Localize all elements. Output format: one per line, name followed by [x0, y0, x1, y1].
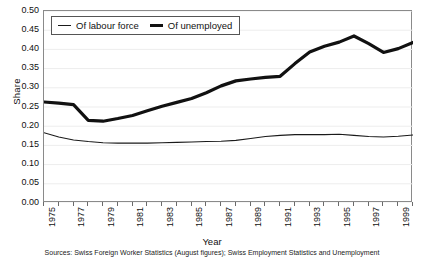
series-line-of-unemployed: [44, 36, 413, 121]
x-axis-tick: [102, 202, 103, 206]
y-axis-tick-label: 0.35: [11, 63, 39, 72]
chart-figure: Share 0.500.450.400.350.300.250.200.150.…: [0, 0, 424, 258]
x-axis-tick-label: 1991: [284, 207, 293, 227]
x-axis-tick: [161, 202, 162, 206]
legend-line-thick-icon: [150, 24, 163, 27]
x-axis-tick: [368, 202, 369, 206]
x-axis-tick-label: 1987: [225, 207, 234, 227]
x-axis-tick: [250, 202, 251, 206]
x-axis-tick: [235, 202, 236, 206]
legend-item-unemployed: Of unemployed: [150, 20, 232, 31]
x-axis-tick: [309, 202, 310, 206]
plot-area: Of labour force Of unemployed: [43, 10, 412, 202]
y-axis-tick-label: 0.05: [11, 178, 39, 187]
x-axis-tick: [146, 202, 147, 206]
x-axis-tick-label: 1999: [402, 207, 411, 227]
source-caption: Sources: Swiss Foreign Worker Statistics…: [0, 249, 424, 257]
x-axis-tick-label: 1981: [136, 207, 145, 227]
x-axis-tick: [176, 202, 177, 206]
x-axis-tick: [43, 202, 44, 206]
x-axis-tick: [353, 202, 354, 206]
x-axis-tick: [205, 202, 206, 206]
chart-canvas: [44, 11, 413, 203]
legend-label-labour-force: Of labour force: [76, 20, 139, 31]
y-axis-tick-labels: 0.500.450.400.350.300.250.200.150.100.05…: [8, 0, 39, 258]
y-axis-tick-label: 0.15: [11, 140, 39, 149]
x-axis-tick: [264, 202, 265, 206]
x-axis-tick-label: 1997: [372, 207, 381, 227]
x-axis-tick: [191, 202, 192, 206]
x-axis-tick: [397, 202, 398, 206]
y-axis-tick-label: 0.25: [11, 102, 39, 111]
x-axis-tick-label: 1989: [254, 207, 263, 227]
x-axis-tick-label: 1995: [343, 207, 352, 227]
series-line-of-labour-force: [44, 133, 413, 143]
x-axis-tick: [338, 202, 339, 206]
x-axis-tick: [279, 202, 280, 206]
y-axis-tick-label: 0.45: [11, 25, 39, 34]
x-axis-title: Year: [0, 236, 424, 247]
y-axis-tick-label: 0.10: [11, 159, 39, 168]
x-axis-tick-label: 1975: [48, 207, 57, 227]
y-axis-tick-label: 0.00: [11, 198, 39, 207]
x-axis-tick-label: 1993: [313, 207, 322, 227]
x-axis-tick: [220, 202, 221, 206]
x-axis-tick: [294, 202, 295, 206]
legend-item-labour-force: Of labour force: [58, 20, 139, 31]
x-axis-tick-label: 1985: [195, 207, 204, 227]
x-axis-tick-label: 1977: [77, 207, 86, 227]
x-axis-tick: [382, 202, 383, 206]
x-axis-tick: [58, 202, 59, 206]
x-axis-tick: [412, 202, 413, 206]
y-axis-tick-label: 0.20: [11, 121, 39, 130]
chart-legend: Of labour force Of unemployed: [51, 16, 240, 35]
x-axis-tick: [323, 202, 324, 206]
y-axis-tick-label: 0.50: [11, 6, 39, 15]
x-axis-tick-label: 1983: [166, 207, 175, 227]
y-axis-tick-label: 0.40: [11, 44, 39, 53]
x-axis-tick: [87, 202, 88, 206]
legend-line-thin-icon: [58, 25, 71, 26]
x-axis-tick: [132, 202, 133, 206]
series-layer: [44, 36, 413, 143]
legend-label-unemployed: Of unemployed: [168, 20, 232, 31]
x-axis-tick: [117, 202, 118, 206]
gridlines: [44, 11, 413, 203]
x-axis-tick-label: 1979: [107, 207, 116, 227]
x-axis-tick: [73, 202, 74, 206]
y-axis-tick-label: 0.30: [11, 82, 39, 91]
